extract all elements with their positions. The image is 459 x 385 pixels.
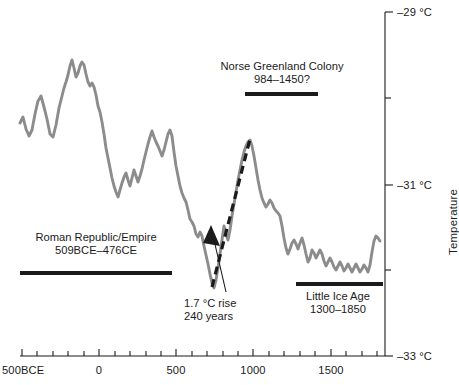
x-axis-tick-label: 1000 xyxy=(240,364,265,376)
y-axis-tick-label: –31 °C xyxy=(397,179,432,191)
y-axis-tick-label: –29 °C xyxy=(397,6,432,18)
x-axis-tick-label: 500 xyxy=(167,364,186,376)
x-axis-ticks xyxy=(22,349,377,356)
x-axis-tick-label: 1500 xyxy=(318,364,343,376)
annotation-norse-line2: 984–1450? xyxy=(218,73,346,86)
y-axis-tick-label: –33 °C xyxy=(397,350,432,362)
x-axis-tick-label: 0 xyxy=(96,364,102,376)
temperature-chart-figure: 500BCE050010001500 –29 °C–31 °C–33 °C Te… xyxy=(0,0,459,385)
annotation-rise-line2: 240 years xyxy=(184,310,260,323)
annotation-lia-line1: Little Ice Age xyxy=(288,290,388,303)
chart-canvas xyxy=(0,0,459,385)
annotation-roman-line1: Roman Republic/Empire xyxy=(22,231,170,244)
annotation-norse-line1: Norse Greenland Colony xyxy=(218,60,346,73)
y-axis-title: Temperature xyxy=(447,189,459,255)
annotation-roman-line2: 509BCE–476CE xyxy=(22,244,170,257)
annotation-little-ice-age: Little Ice Age 1300–1850 xyxy=(288,290,388,317)
annotation-rise-line1: 1.7 °C rise xyxy=(184,297,260,310)
annotation-roman-republic-empire: Roman Republic/Empire 509BCE–476CE xyxy=(22,231,170,258)
annotation-rise-callout: 1.7 °C rise 240 years xyxy=(184,297,260,324)
annotation-lia-line2: 1300–1850 xyxy=(288,303,388,316)
callout-arrowhead xyxy=(203,225,220,246)
annotation-norse-greenland-colony: Norse Greenland Colony 984–1450? xyxy=(218,60,346,87)
x-axis-tick-label: 500BCE xyxy=(2,364,44,376)
